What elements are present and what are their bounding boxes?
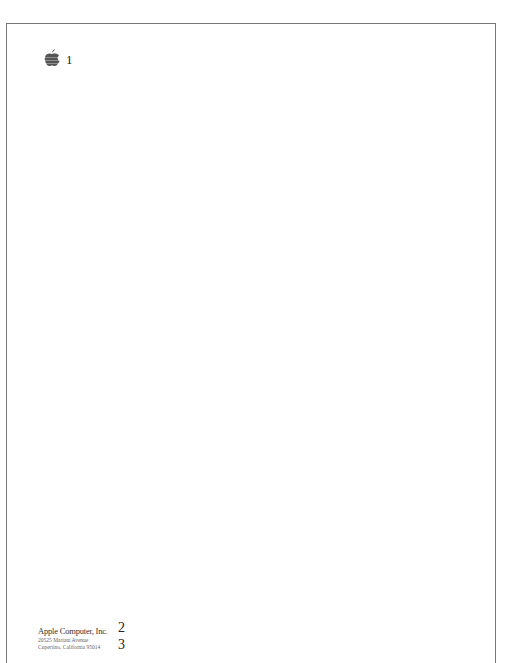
apple-logo-icon	[44, 49, 60, 67]
marker-1: 1	[66, 52, 73, 68]
company-name: Apple Computer, Inc.	[38, 626, 108, 636]
marker-2: 2	[118, 620, 125, 636]
street-address: 20525 Mariani Avenue	[38, 637, 88, 643]
marker-3: 3	[118, 637, 125, 653]
city-address: Cupertino, California 95014	[38, 644, 100, 650]
letterhead-page	[6, 23, 496, 663]
